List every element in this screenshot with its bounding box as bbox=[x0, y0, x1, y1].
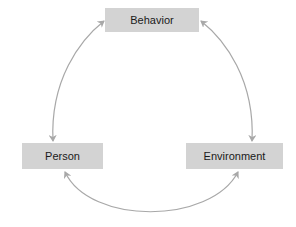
reciprocal-determinism-diagram: Behavior Person Environment bbox=[0, 0, 296, 227]
arrows-layer bbox=[0, 0, 296, 227]
arrow-person-behavior bbox=[53, 21, 104, 141]
node-environment-label: Environment bbox=[204, 150, 266, 162]
node-behavior: Behavior bbox=[105, 8, 199, 32]
arrow-person-environment bbox=[65, 172, 238, 212]
node-environment: Environment bbox=[186, 143, 283, 169]
node-behavior-label: Behavior bbox=[130, 14, 173, 26]
arrow-behavior-environment bbox=[201, 21, 252, 141]
node-person: Person bbox=[22, 143, 103, 169]
node-person-label: Person bbox=[45, 150, 80, 162]
